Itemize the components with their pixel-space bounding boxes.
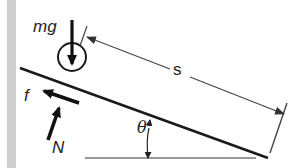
friction-arrow	[44, 91, 79, 103]
dimension-line-upper	[87, 37, 170, 69]
dimension-tick-top	[80, 26, 87, 46]
angle-label: θ	[137, 120, 147, 136]
distance-label: s	[171, 61, 184, 78]
angle-arc	[147, 128, 149, 156]
friction-label: f	[24, 87, 29, 104]
angle-arrow-up	[149, 120, 150, 126]
dimension-line-lower	[190, 77, 284, 114]
weight-label: mg	[33, 18, 57, 35]
normal-arrow	[48, 108, 59, 140]
inclined-plane-diagram: mg f N s θ	[0, 0, 308, 168]
normal-label: N	[52, 139, 64, 156]
dimension-tick-bottom	[270, 103, 287, 153]
